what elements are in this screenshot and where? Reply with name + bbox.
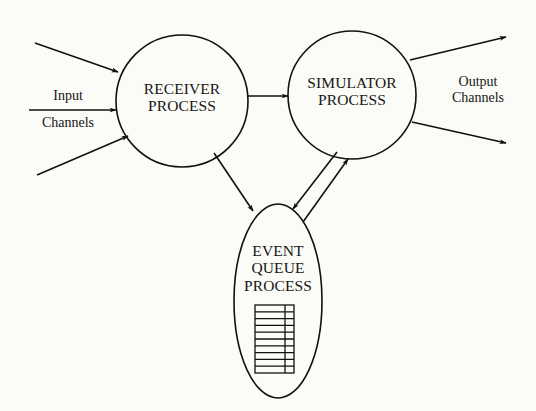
input-label-line1: Input	[28, 88, 108, 104]
event-queue-label-line1: EVENT	[234, 242, 322, 259]
receiver-to-queue-arrow	[214, 153, 253, 211]
simulator-label-line2: PROCESS	[288, 91, 416, 108]
output-label-line2: Channels	[440, 90, 516, 106]
simulator-to-queue-arrow	[293, 152, 337, 209]
receiver-label-line1: RECEIVER	[116, 80, 248, 97]
output-label-line1: Output	[440, 74, 516, 90]
input-label-line2: Channels	[28, 115, 108, 131]
queue-to-simulator-arrow	[303, 159, 348, 222]
output-channel-arrow-2	[412, 122, 506, 143]
output-channels-label: Output Channels	[440, 74, 516, 105]
event-queue-label-line3: PROCESS	[234, 277, 322, 294]
input-channels-label: Input Channels	[28, 88, 108, 130]
input-channel-arrow-3	[37, 136, 128, 175]
simulator-process-label: SIMULATOR PROCESS	[288, 74, 416, 109]
process-diagram	[0, 0, 536, 411]
receiver-process-label: RECEIVER PROCESS	[116, 80, 248, 115]
event-queue-label-line2: QUEUE	[234, 259, 322, 276]
queue-table-icon	[255, 305, 294, 373]
input-channel-arrow-1	[35, 43, 118, 72]
event-queue-process-node	[234, 204, 322, 398]
simulator-label-line1: SIMULATOR	[288, 74, 416, 91]
output-channel-arrow-1	[410, 37, 506, 60]
receiver-label-line2: PROCESS	[116, 97, 248, 114]
event-queue-process-label: EVENT QUEUE PROCESS	[234, 242, 322, 294]
